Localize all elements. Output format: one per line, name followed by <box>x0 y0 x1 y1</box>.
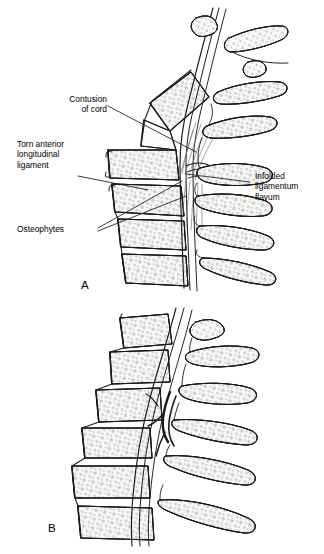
label-osteophytes: Osteophytes <box>17 224 107 234</box>
vertebral-body <box>118 219 186 250</box>
panel-b-illustration <box>72 308 259 546</box>
spinous-process <box>158 500 255 533</box>
spine-injury-figure: Contusion of cord Torn anterior longitud… <box>0 0 324 554</box>
vertebral-body <box>72 466 150 498</box>
panel-letter-b: B <box>48 522 56 534</box>
label-contusion-of-cord: Contusion of cord <box>25 94 107 115</box>
spinous-process <box>164 456 256 485</box>
panel-a-illustration <box>105 8 288 291</box>
vertebral-body <box>78 506 154 540</box>
spinous-process <box>197 225 274 250</box>
spinous-process <box>179 383 257 404</box>
vertebral-body <box>109 184 184 216</box>
spinous-process <box>224 26 288 52</box>
spinous-process <box>190 319 225 340</box>
spinous-process <box>185 346 259 367</box>
figure-illustration <box>0 0 324 554</box>
label-infolded-ligamentum-flavum: Infolded ligamentum flavum <box>255 171 321 202</box>
panel-letter-a: A <box>81 279 89 291</box>
spinous-process <box>200 258 276 285</box>
spinous-process <box>191 16 217 37</box>
label-torn-anterior-longitudinal-ligament: Torn anterior longitudinal ligament <box>17 139 115 170</box>
facet-joint <box>243 61 266 78</box>
vertebral-body-injury-level <box>105 150 179 180</box>
vertebral-body <box>96 388 162 422</box>
vertebral-body <box>110 350 170 384</box>
spinous-process <box>213 81 287 104</box>
vertebral-body <box>120 314 172 348</box>
spinous-process <box>203 116 277 138</box>
spinous-process <box>172 419 258 445</box>
vertebral-body <box>122 254 188 286</box>
